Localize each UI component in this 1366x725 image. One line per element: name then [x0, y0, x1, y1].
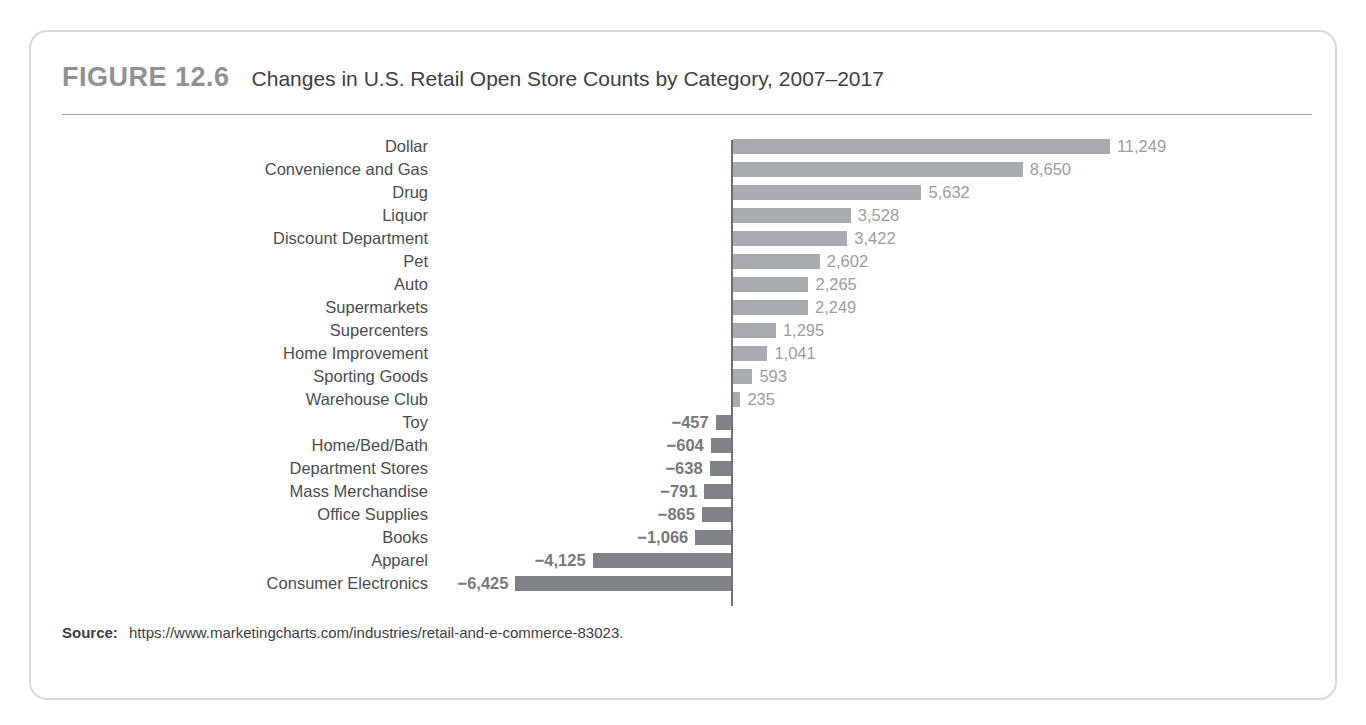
bar	[733, 185, 922, 200]
bar	[695, 530, 731, 545]
bar-value-label: −865	[658, 503, 695, 526]
chart-row: Mass Merchandise−791	[31, 480, 1339, 503]
page-title: Changes in U.S. Retail Open Store Counts…	[252, 67, 884, 91]
chart-row: Supermarkets2,249	[31, 296, 1339, 319]
bar	[711, 438, 731, 453]
chart-row: Office Supplies−865	[31, 503, 1339, 526]
category-label: Books	[31, 526, 428, 549]
category-label: Supercenters	[31, 319, 428, 342]
chart-row: Home Improvement1,041	[31, 342, 1339, 365]
category-label: Auto	[31, 273, 428, 296]
category-label: Supermarkets	[31, 296, 428, 319]
bar-value-label: 5,632	[928, 181, 969, 204]
category-label: Pet	[31, 250, 428, 273]
bar-value-label: 1,041	[774, 342, 815, 365]
bar	[733, 208, 851, 223]
bar-value-label: −1,066	[637, 526, 688, 549]
chart-row: Apparel−4,125	[31, 549, 1339, 572]
chart-row: Dollar11,249	[31, 135, 1339, 158]
figure-card: FIGURE 12.6 Changes in U.S. Retail Open …	[29, 30, 1337, 700]
bar	[593, 553, 731, 568]
chart-row: Consumer Electronics−6,425	[31, 572, 1339, 595]
bar	[733, 277, 809, 292]
bar-value-label: 2,265	[815, 273, 856, 296]
category-label: Discount Department	[31, 227, 428, 250]
bar-value-label: 235	[747, 388, 775, 411]
bar	[733, 346, 768, 361]
bar	[733, 162, 1023, 177]
bar-value-label: −791	[660, 480, 697, 503]
bar-value-label: 11,249	[1117, 135, 1166, 158]
bar	[733, 139, 1110, 154]
category-label: Home Improvement	[31, 342, 428, 365]
bar-value-label: 3,528	[858, 204, 899, 227]
bar	[710, 461, 731, 476]
category-label: Liquor	[31, 204, 428, 227]
bar-value-label: −604	[667, 434, 704, 457]
category-label: Warehouse Club	[31, 388, 428, 411]
source-label: Source:	[62, 624, 118, 641]
chart-row: Convenience and Gas8,650	[31, 158, 1339, 181]
figure-header: FIGURE 12.6 Changes in U.S. Retail Open …	[62, 62, 1312, 112]
bar	[515, 576, 731, 591]
category-label: Drug	[31, 181, 428, 204]
bar	[733, 231, 848, 246]
bar-value-label: 2,249	[815, 296, 856, 319]
category-label: Office Supplies	[31, 503, 428, 526]
chart-row: Liquor3,528	[31, 204, 1339, 227]
category-label: Apparel	[31, 549, 428, 572]
chart-row: Books−1,066	[31, 526, 1339, 549]
chart-row: Supercenters1,295	[31, 319, 1339, 342]
category-label: Mass Merchandise	[31, 480, 428, 503]
bar-value-label: 2,602	[827, 250, 868, 273]
bar-value-label: −4,125	[535, 549, 586, 572]
bar	[733, 369, 753, 384]
source-line: Source: https://www.marketingcharts.com/…	[62, 624, 623, 641]
bar-value-label: 8,650	[1030, 158, 1071, 181]
bar	[702, 507, 731, 522]
category-label: Department Stores	[31, 457, 428, 480]
bar-value-label: 1,295	[783, 319, 824, 342]
bar	[716, 415, 731, 430]
category-label: Sporting Goods	[31, 365, 428, 388]
chart-row: Discount Department3,422	[31, 227, 1339, 250]
bar	[733, 323, 776, 338]
chart-row: Toy−457	[31, 411, 1339, 434]
figure-number: FIGURE 12.6	[62, 62, 230, 93]
chart-row: Pet2,602	[31, 250, 1339, 273]
bar-value-label: 3,422	[854, 227, 895, 250]
chart-row: Drug5,632	[31, 181, 1339, 204]
bar-value-label: −6,425	[458, 572, 509, 595]
category-label: Home/Bed/Bath	[31, 434, 428, 457]
bar	[733, 392, 741, 407]
chart-row: Auto2,265	[31, 273, 1339, 296]
category-label: Toy	[31, 411, 428, 434]
category-label: Dollar	[31, 135, 428, 158]
bar-value-label: −638	[665, 457, 702, 480]
chart-row: Warehouse Club235	[31, 388, 1339, 411]
chart-row: Home/Bed/Bath−604	[31, 434, 1339, 457]
bar-chart: Dollar11,249Convenience and Gas8,650Drug…	[31, 135, 1339, 613]
bar	[704, 484, 731, 499]
category-label: Consumer Electronics	[31, 572, 428, 595]
chart-row: Department Stores−638	[31, 457, 1339, 480]
bar-value-label: 593	[759, 365, 787, 388]
bar-value-label: −457	[672, 411, 709, 434]
chart-row: Sporting Goods593	[31, 365, 1339, 388]
category-label: Convenience and Gas	[31, 158, 428, 181]
header-divider	[62, 114, 1312, 115]
bar	[733, 300, 808, 315]
bar	[733, 254, 820, 269]
source-url: https://www.marketingcharts.com/industri…	[129, 624, 623, 641]
